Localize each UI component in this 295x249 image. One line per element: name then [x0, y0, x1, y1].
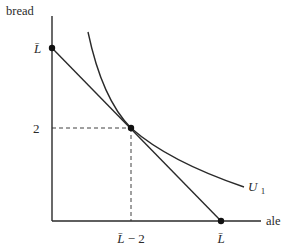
y-tick-label-2: 2: [33, 121, 40, 136]
curve-label-base: U: [248, 179, 259, 194]
x-tick-label-lbar-minus-2: L̄ − 2: [116, 231, 145, 246]
curve-label-sub: 1: [261, 186, 266, 196]
y-axis-label: bread: [6, 4, 35, 18]
x-axis-label: ale: [266, 214, 281, 228]
x-intercept-point: [218, 218, 224, 224]
x-tick-label-base: L̄: [116, 231, 124, 246]
indifference-curve-diagram: bread ale L̄ 2 L̄ − 2 L̄ U 1: [0, 0, 295, 249]
x-tick-label-suffix: − 2: [128, 231, 145, 246]
y-intercept-point: [49, 45, 55, 51]
y-intercept-label: L̄: [33, 41, 41, 56]
x-intercept-label: L̄: [216, 231, 224, 246]
budget-line: [52, 48, 221, 221]
curve-label-u1: U 1: [248, 179, 265, 196]
tangency-point: [128, 125, 134, 131]
